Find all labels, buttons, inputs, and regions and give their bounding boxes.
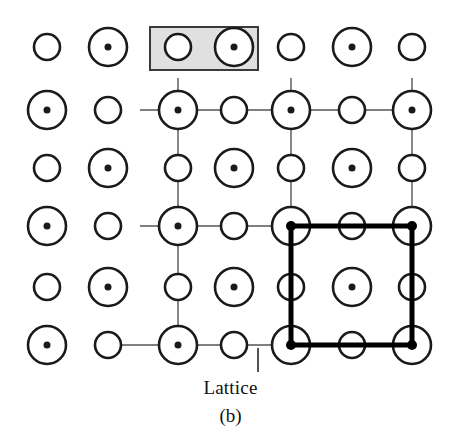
small-atom-19 — [221, 332, 247, 358]
large-atom-with-center-dot-4 — [159, 91, 197, 129]
large-atom-with-center-dot-5 — [272, 91, 310, 129]
unit-cell-corner-node-0 — [286, 221, 296, 231]
small-atom-circle — [278, 34, 304, 60]
small-atom-circle — [34, 34, 60, 60]
atom-center-dot — [175, 342, 182, 349]
small-atom-circle — [34, 274, 60, 300]
atom-center-dot — [231, 165, 238, 172]
large-atom-with-center-dot-11 — [159, 207, 197, 245]
small-atom-12 — [221, 213, 247, 239]
atom-center-dot — [349, 284, 356, 291]
small-atom-4 — [95, 97, 121, 123]
large-atom-with-center-dot-17 — [28, 326, 66, 364]
small-atom-0 — [34, 34, 60, 60]
small-atom-5 — [221, 97, 247, 123]
small-atom-circle — [95, 332, 121, 358]
atom-center-dot — [175, 223, 182, 230]
small-atom-11 — [95, 213, 121, 239]
small-atom-1 — [165, 34, 191, 60]
atom-center-dot — [105, 44, 112, 51]
small-atom-circle — [34, 155, 60, 181]
small-atom-14 — [34, 274, 60, 300]
large-atom-with-center-dot-0 — [89, 28, 127, 66]
large-atom-with-center-dot-8 — [215, 149, 253, 187]
small-atom-circle — [339, 97, 365, 123]
small-atom-circle — [221, 97, 247, 123]
atom-center-dot — [231, 44, 238, 51]
large-atom-with-center-dot-15 — [215, 268, 253, 306]
lattice-diagram-canvas — [0, 0, 461, 440]
small-atom-9 — [278, 155, 304, 181]
small-atom-circle — [399, 34, 425, 60]
small-atom-circle — [95, 213, 121, 239]
atom-center-dot — [349, 165, 356, 172]
small-atom-circle — [165, 155, 191, 181]
atom-center-dot — [288, 107, 295, 114]
small-atom-circle — [95, 97, 121, 123]
crystal-structure-figure: Lattice (b) — [0, 0, 461, 440]
atom-center-dot — [44, 107, 51, 114]
atom-center-dot — [175, 107, 182, 114]
small-atom-8 — [165, 155, 191, 181]
unit-cell-corner-node-3 — [407, 340, 417, 350]
large-atom-with-center-dot-14 — [89, 268, 127, 306]
small-atom-10 — [399, 155, 425, 181]
small-atom-6 — [339, 97, 365, 123]
small-atom-7 — [34, 155, 60, 181]
large-atom-with-center-dot-10 — [28, 207, 66, 245]
atom-center-dot — [105, 284, 112, 291]
large-atom-with-center-dot-9 — [333, 149, 371, 187]
small-atom-circle — [221, 213, 247, 239]
atom-center-dot — [105, 165, 112, 172]
atom-center-dot — [349, 44, 356, 51]
small-atom-15 — [165, 274, 191, 300]
unit-cell-corner-node-2 — [286, 340, 296, 350]
large-atom-with-center-dot-7 — [89, 149, 127, 187]
large-atom-with-center-dot-2 — [333, 28, 371, 66]
small-atom-circle — [165, 274, 191, 300]
atom-center-dot — [44, 223, 51, 230]
atom-center-dot — [409, 107, 416, 114]
large-atom-with-center-dot-1 — [215, 28, 253, 66]
large-atom-with-center-dot-18 — [159, 326, 197, 364]
large-atom-with-center-dot-16 — [333, 268, 371, 306]
small-atom-2 — [278, 34, 304, 60]
small-atom-circle — [278, 155, 304, 181]
atom-center-dot — [44, 342, 51, 349]
small-atom-circle — [165, 34, 191, 60]
large-atom-with-center-dot-6 — [393, 91, 431, 129]
large-atom-with-center-dot-3 — [28, 91, 66, 129]
small-atom-18 — [95, 332, 121, 358]
small-atom-circle — [399, 155, 425, 181]
small-atom-3 — [399, 34, 425, 60]
unit-cell-corner-node-1 — [407, 221, 417, 231]
atom-center-dot — [231, 284, 238, 291]
small-atom-circle — [221, 332, 247, 358]
